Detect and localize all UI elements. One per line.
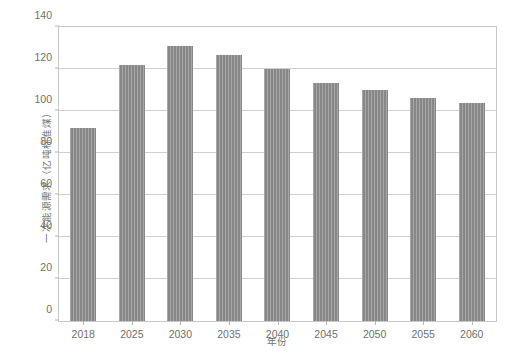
y-axis-tick-label: 100 [34, 93, 59, 105]
y-axis-tick-label: 140 [34, 9, 59, 21]
x-axis-tick-mark [278, 321, 279, 325]
bar [216, 55, 242, 321]
bar [119, 65, 145, 321]
y-axis-tick-label: 60 [40, 177, 59, 189]
bar-slot [302, 27, 351, 321]
y-axis-tick-label: 80 [40, 135, 59, 147]
bar [313, 83, 339, 321]
x-axis-tick-mark [132, 321, 133, 325]
bar-slot [350, 27, 399, 321]
bar-slot [399, 27, 448, 321]
bar [167, 46, 193, 321]
bar [264, 69, 290, 321]
x-axis-tick-mark [180, 321, 181, 325]
y-axis-tick-label: 120 [34, 51, 59, 63]
x-axis-tick-mark [472, 321, 473, 325]
bar-slot [156, 27, 205, 321]
bar-slot [253, 27, 302, 321]
primary-energy-demand-bar-chart: 一次能源需求（亿吨标准煤） 020406080100120140 2018202… [0, 0, 513, 363]
bar [459, 103, 485, 321]
bar [362, 90, 388, 321]
x-axis-tick-mark [83, 321, 84, 325]
bar-slot [108, 27, 157, 321]
y-axis-tick-label: 0 [46, 303, 59, 315]
plot-area: 020406080100120140 201820252030203520402… [58, 26, 497, 322]
bar-slot [447, 27, 496, 321]
x-axis-tick-mark [423, 321, 424, 325]
x-axis-tick-mark [326, 321, 327, 325]
y-axis-tick-label: 40 [40, 219, 59, 231]
bar-slot [59, 27, 108, 321]
bar [70, 128, 96, 321]
bar-slot [205, 27, 254, 321]
x-axis-title: 年份 [58, 334, 497, 348]
x-axis-tick-mark [229, 321, 230, 325]
y-axis-tick-label: 20 [40, 261, 59, 273]
bar [410, 98, 436, 321]
bars-group [59, 27, 496, 321]
x-axis-tick-mark [375, 321, 376, 325]
